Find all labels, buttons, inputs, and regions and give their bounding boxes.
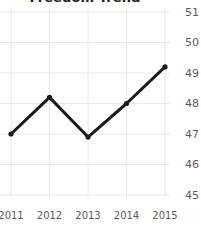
y-tick-label-46: 46 — [173, 159, 199, 170]
chart-title: Freedom Trend — [0, 0, 170, 5]
y-tick-label-48: 48 — [173, 98, 199, 109]
x-tick-label-2013: 2013 — [68, 210, 108, 222]
line-chart: Freedom Trend 51504948474645 20112012201… — [0, 0, 201, 225]
plot-area — [0, 8, 170, 198]
y-tick-label-49: 49 — [173, 68, 199, 79]
data-point-2015 — [162, 64, 167, 69]
x-tick-label-2014: 2014 — [107, 210, 147, 222]
x-tick-label-2011: 2011 — [0, 210, 31, 222]
y-tick-label-45: 45 — [173, 190, 199, 201]
y-tick-label-50: 50 — [173, 37, 199, 48]
plot-svg — [0, 8, 170, 198]
x-tick-label-2012: 2012 — [30, 210, 70, 222]
x-tick-label-2015: 2015 — [145, 210, 185, 222]
y-tick-label-51: 51 — [173, 7, 199, 18]
data-point-2014 — [124, 101, 129, 106]
data-point-2011 — [8, 131, 13, 136]
horizontal-gridlines — [0, 12, 170, 195]
y-tick-label-47: 47 — [173, 129, 199, 140]
data-point-2012 — [47, 95, 52, 100]
data-point-2013 — [85, 134, 90, 139]
